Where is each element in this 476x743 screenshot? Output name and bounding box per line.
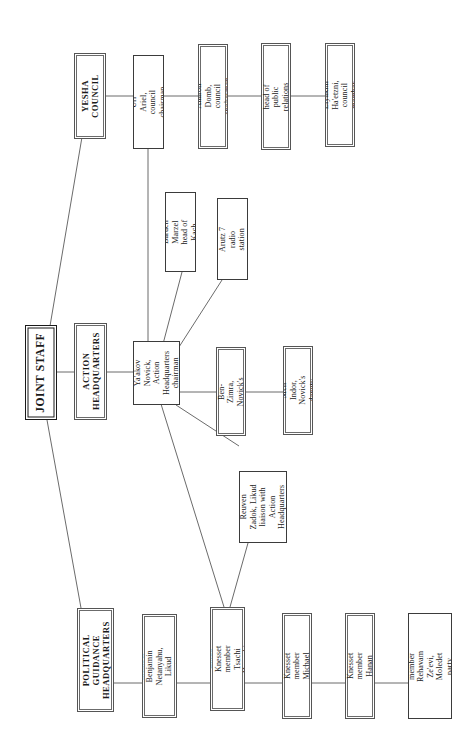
node-joint-staff-label: JOINT STAFF <box>34 333 48 413</box>
node-reuven-zadok-label: Reuven Zadok, Likud liaison with Action … <box>239 484 287 530</box>
node-aharon-domb-label: Aharon Domb, council spokesman <box>198 78 228 115</box>
connector-joint-staff-yesha-council <box>50 137 82 326</box>
node-action-headquarters[interactable]: ACTION HEADQUARTERS <box>74 323 107 420</box>
node-uri-elitsur-label: Uri Elitsur, head of public relations de… <box>261 78 291 115</box>
connector-reuven-zadok-tsachi-hanegbi <box>230 543 248 607</box>
node-aharon-domb[interactable]: Aharon Domb, council spokesman <box>198 44 228 149</box>
node-action-headquarters-label: ACTION HEADQUARTERS <box>80 333 100 411</box>
node-elyakim-haetzni-label: Elyakim Ha'etzni, council member <box>325 80 355 110</box>
node-meir-indor-label: Meir Indor, Novick's deputy <box>283 376 313 405</box>
node-rehavam-zeevi[interactable]: Knesset member Rehavam Ze'evi, Moledet p… <box>408 613 452 719</box>
node-uri-ariel[interactable]: Uri Ariel, council chairman <box>133 55 164 149</box>
node-gadi-ben-zimra-label: Gadi Ben-Zimra, Novick's deputy <box>216 377 246 406</box>
connector-yaakov-novick-baruch-marzel <box>163 272 182 344</box>
connector-yaakov-novick-tsachi-hanegbi <box>161 404 224 607</box>
node-benjamin-netanyahu[interactable]: Knesset member Benjamin Netanyahu, Likud… <box>142 614 177 718</box>
node-uri-elitsur[interactable]: Uri Elitsur, head of public relations de… <box>261 43 291 150</box>
node-political-guidance-headquarters-label: POLITICAL GUIDANCE HEADQUARTERS <box>80 621 110 699</box>
org-chart-canvas: JOINT STAFF YESHA COUNCIL Uri Ariel, cou… <box>0 0 476 743</box>
node-reuven-zadok[interactable]: Reuven Zadok, Likud liaison with Action … <box>239 471 287 543</box>
node-benjamin-netanyahu-label: Knesset member Benjamin Netanyahu, Likud… <box>142 647 177 685</box>
connector-joint-staff-political-hq <box>47 420 81 608</box>
node-yaakov-novick-label: Ya'akov Novick, Action Headquarters chai… <box>133 350 180 395</box>
node-baruch-marzel-label: Baruch Marzel head of Kach <box>165 218 196 247</box>
node-michael-eitan-label: Likud Knesset member Michael Eitan <box>282 652 312 680</box>
node-michael-eitan[interactable]: Likud Knesset member Michael Eitan <box>282 613 312 719</box>
node-arutz-7-label: Arutz 7 radio station <box>218 224 247 253</box>
node-rehavam-zeevi-label: Knesset member Rehavam Ze'evi, Moledet p… <box>408 645 452 687</box>
node-yesha-council[interactable]: YESHA COUNCIL <box>74 53 106 139</box>
node-yaakov-novick[interactable]: Ya'akov Novick, Action Headquarters chai… <box>133 341 180 405</box>
node-meir-indor[interactable]: Meir Indor, Novick's deputy <box>283 346 313 435</box>
node-arutz-7[interactable]: Arutz 7 radio station <box>217 198 248 280</box>
node-political-guidance-headquarters[interactable]: POLITICAL GUIDANCE HEADQUARTERS <box>77 608 114 712</box>
connector-yaakov-novick-arutz-7 <box>179 280 222 347</box>
node-uri-ariel-label: Uri Ariel, council chairman <box>133 87 164 118</box>
node-gadi-ben-zimra[interactable]: Gadi Ben-Zimra, Novick's deputy <box>216 347 246 436</box>
node-hanan-porat[interactable]: NRP Knesset member Hanan Porat <box>345 613 375 719</box>
node-hanan-porat-label: NRP Knesset member Hanan Porat <box>345 652 375 680</box>
node-tsachi-hanegbi-label: Likud Knesset member Tsachi Hanegbi <box>210 642 245 675</box>
node-joint-staff[interactable]: JOINT STAFF <box>25 325 57 420</box>
node-yesha-council-label: YESHA COUNCIL <box>80 74 100 118</box>
node-tsachi-hanegbi[interactable]: Likud Knesset member Tsachi Hanegbi <box>210 607 245 711</box>
node-elyakim-haetzni[interactable]: Elyakim Ha'etzni, council member <box>325 43 355 147</box>
node-baruch-marzel[interactable]: Baruch Marzel head of Kach <box>165 192 196 272</box>
